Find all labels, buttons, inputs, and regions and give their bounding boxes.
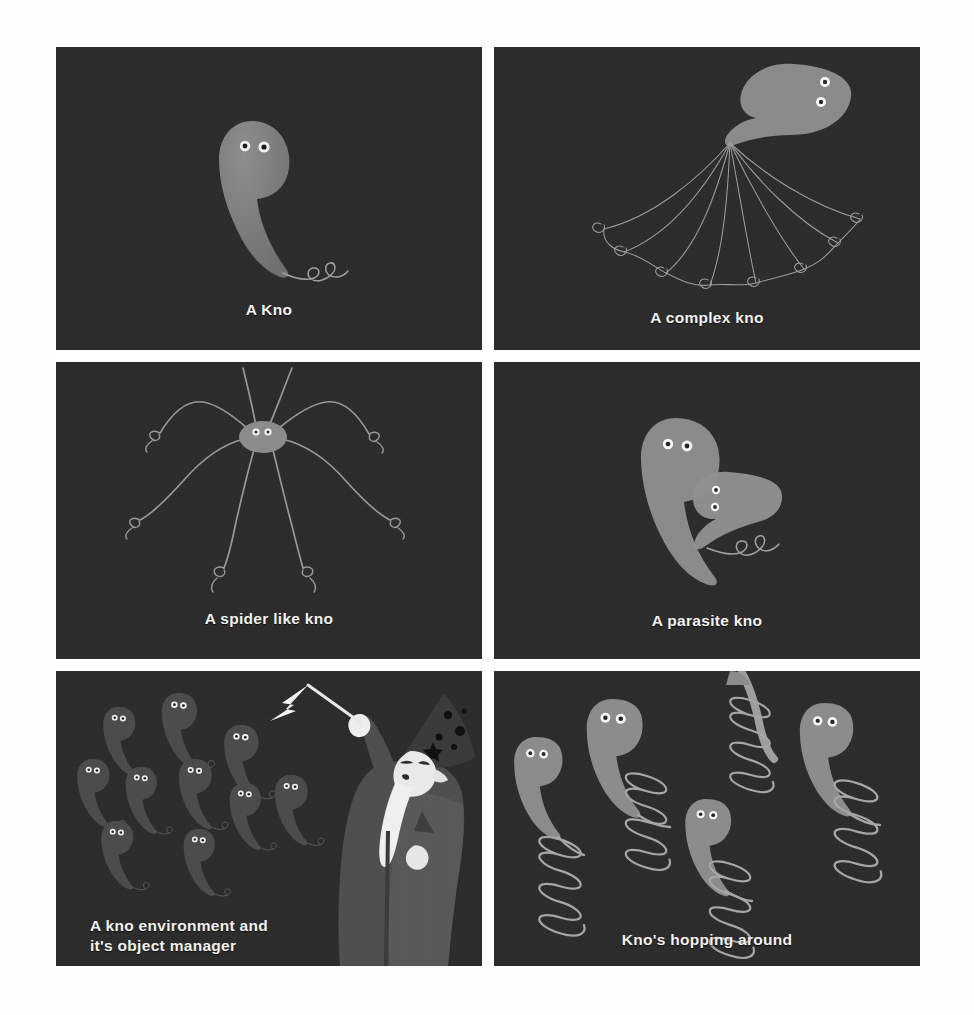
dim-kno: [101, 821, 149, 890]
complex-kno-head: [725, 64, 851, 146]
hopping-kno-1: [514, 737, 584, 936]
kno-tail-curl: [283, 263, 348, 281]
spring: [626, 773, 670, 870]
dim-kno: [184, 829, 231, 896]
host-kno-eye-left: [663, 439, 673, 449]
hopping-kno-2: [587, 699, 670, 870]
leg: [243, 368, 256, 426]
complex-kno-illustration: [494, 47, 920, 350]
kno-body-group: [219, 121, 348, 281]
lightning-bolt: [270, 685, 308, 721]
leg: [273, 450, 303, 568]
complex-kno-eye-lower: [816, 97, 826, 107]
kno-eye-left: [240, 141, 250, 151]
parasite-kno-eye-upper: [712, 486, 720, 494]
kno-eye-right: [258, 141, 269, 152]
tentacle: [730, 143, 756, 283]
leg: [224, 450, 254, 568]
tentacle: [710, 143, 730, 285]
spider-kno-eye-left: [252, 428, 259, 435]
parasite-kno-illustration: [494, 362, 920, 659]
hopping-kno-5: [800, 703, 881, 882]
parasite-kno-eye-lower: [711, 503, 719, 511]
illustration-sheet: A Kno: [0, 0, 974, 1015]
complex-kno-tentacles: [593, 143, 863, 288]
panel-a-spider-like-kno: A spider like kno: [56, 362, 482, 659]
leg: [282, 439, 390, 520]
dim-kno: [275, 775, 324, 845]
tentacle-hem: [604, 219, 860, 285]
parasite-kno-group: [693, 472, 782, 549]
dim-kno: [126, 767, 173, 834]
knos-on-springs-illustration: [494, 671, 920, 966]
leg: [279, 402, 369, 434]
spring: [835, 780, 882, 882]
spider-kno-body-group: [239, 421, 287, 453]
panel-a-kno: A Kno: [56, 47, 482, 350]
tentacle-tip-curls: [593, 213, 863, 288]
hopping-kno-4: [726, 671, 774, 792]
wizard-and-knos-illustration: [56, 671, 482, 966]
spider-kno-leg-tip-curls: [126, 431, 404, 592]
parasite-kno-tail-curl: [707, 536, 779, 556]
leg: [269, 368, 292, 426]
leg: [140, 439, 244, 520]
panel-a-complex-kno: A complex kno: [494, 47, 920, 350]
tentacle: [666, 143, 730, 273]
spider-kno-illustration: [56, 362, 482, 659]
panel-grid: A Kno: [56, 47, 920, 966]
wizard-staff: [386, 831, 388, 966]
kno-tail-to-spring: [726, 891, 752, 901]
spring: [710, 861, 754, 958]
dim-kno: [77, 759, 125, 828]
dim-kno: [162, 693, 215, 768]
panel-a-parasite-kno: A parasite kno: [494, 362, 920, 659]
wizard-wand: [308, 685, 361, 723]
spider-kno-eye-right: [264, 428, 271, 435]
host-kno-eye-right: [682, 441, 693, 452]
tentacle: [730, 143, 838, 243]
single-kno-illustration: [56, 47, 482, 350]
complex-kno-head-group: [725, 64, 851, 146]
parasite-kno-body: [693, 472, 782, 549]
hopping-kno-3: [685, 799, 754, 958]
dim-kno: [179, 759, 228, 829]
spider-kno-legs: [140, 368, 390, 568]
panel-a-kno-environment: A kno environment and it's object manage…: [56, 671, 482, 966]
leg: [160, 402, 247, 433]
spider-kno-body: [239, 421, 287, 453]
kno-body: [219, 121, 289, 278]
panel-knos-hopping-around: Kno's hopping around: [494, 671, 920, 966]
tentacle: [604, 143, 730, 229]
wizard: [270, 685, 475, 966]
dim-kno: [103, 707, 151, 776]
complex-kno-eye-upper: [820, 77, 830, 87]
dim-kno-cluster: [77, 693, 324, 896]
